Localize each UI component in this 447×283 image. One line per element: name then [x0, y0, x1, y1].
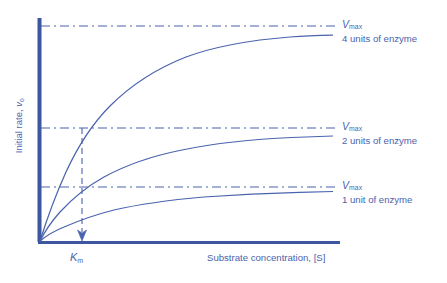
- annotation-caption-4-units: 4 units of enzyme: [342, 33, 417, 45]
- annotation-caption-1-unit: 1 unit of enzyme: [342, 194, 412, 206]
- annotation-caption-2-units: 2 units of enzyme: [342, 135, 417, 147]
- vmax-subscript: max: [349, 23, 362, 30]
- y-axis-label-prefix: Initial rate,: [13, 107, 24, 153]
- y-axis-label-subscript: o: [18, 98, 25, 102]
- y-axis-label: Initial rate, vo: [13, 76, 24, 176]
- enzyme-kinetics-chart: Initial rate, vo Substrate concentration…: [0, 0, 447, 283]
- annotation-vmax-2-units: Vmax 2 units of enzyme: [342, 121, 417, 147]
- curve-2-units-of-enzyme: [40, 136, 333, 241]
- vmax-symbol: V: [342, 179, 349, 191]
- vmax-symbol: V: [342, 120, 349, 132]
- y-axis-label-symbol: v: [13, 102, 24, 107]
- annotation-vmax-symbol-1-unit: Vmax: [342, 180, 412, 193]
- km-subscript: m: [77, 257, 83, 264]
- vmax-subscript: max: [349, 125, 362, 132]
- vmax-subscript: max: [349, 184, 362, 191]
- annotation-vmax-4-units: Vmax 4 units of enzyme: [342, 19, 417, 45]
- vmax-symbol: V: [342, 18, 349, 30]
- km-tick-label: Km: [70, 251, 83, 264]
- x-axis-label: Substrate concentration, [S]: [207, 252, 325, 263]
- annotation-vmax-1-unit: Vmax 1 unit of enzyme: [342, 180, 412, 206]
- annotation-vmax-symbol-2-units: Vmax: [342, 121, 417, 134]
- annotation-vmax-symbol-4-units: Vmax: [342, 19, 417, 32]
